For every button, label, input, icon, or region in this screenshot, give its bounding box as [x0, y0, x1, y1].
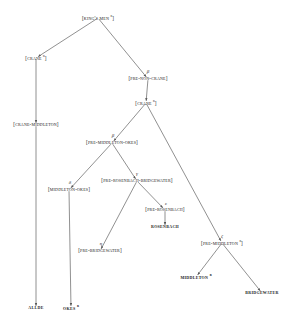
- edge-pre-ros-bri-to-pre-bridgewater: [101, 182, 136, 249]
- stemma-diagram: [King's Men n][Crane n][Pre-Non-Crane][C…: [0, 0, 295, 322]
- edge-pre-ros-bri-to-pre-rosenbach: [138, 182, 163, 208]
- node-middleton: Middleton n: [180, 274, 211, 280]
- node-label-tail: ]: [112, 15, 114, 21]
- node-pre-bridgewater: [Pre-Bridgewater]: [78, 248, 122, 253]
- node-pre-non-crane: [Pre-Non-Crane]: [128, 76, 167, 81]
- node-label: Rosenbach: [151, 223, 179, 229]
- edge-label-epsilon-ros: ε: [165, 201, 167, 206]
- node-label: [Pre-Rosenbach-Bridgewater]: [101, 177, 172, 183]
- node-label: Bridgewater: [245, 289, 278, 295]
- node-crane-2: [Crane n]: [135, 100, 156, 106]
- node-label: Okes: [63, 305, 77, 311]
- edge-kings-men-to-pre-non-crane: [99, 19, 146, 77]
- edge-crane-2-to-pre-middleton: [147, 104, 221, 241]
- node-crane-middleton: [Crane-Middleton]: [13, 122, 58, 127]
- node-pre-middleton: [Pre-Middleton n]: [201, 240, 243, 246]
- node-pre-rosenbach: [Pre-Rosenbach]: [145, 207, 184, 212]
- edge-middleton-okes-to-okes: [69, 191, 71, 306]
- node-label: [Crane-Middleton]: [13, 121, 58, 127]
- node-rosenbach: Rosenbach: [151, 224, 179, 229]
- node-bridgewater: Bridgewater: [245, 290, 278, 295]
- node-label: [Pre-Middleton: [201, 240, 239, 246]
- edge-label-gamma-ros-bri: γ: [136, 171, 138, 176]
- node-label-tail: ]: [155, 100, 157, 106]
- node-superscript: n: [77, 304, 79, 308]
- edge-label-eta-bridgewater: η: [100, 241, 102, 246]
- node-label-tail: ]: [241, 240, 243, 246]
- edge-layer: [0, 0, 295, 322]
- edge-pre-middleton-to-bridgewater: [223, 244, 260, 291]
- edge-pre-middleton-to-middleton: [198, 244, 221, 275]
- node-allde: Allde: [28, 305, 43, 310]
- node-label: [Pre-Rosenbach]: [145, 206, 184, 212]
- edge-label-beta-non-crane: β: [147, 69, 150, 74]
- node-label: [Pre-Middleton-Okes]: [86, 139, 138, 145]
- edge-label-beta-mid-okes: β: [112, 133, 115, 138]
- node-pre-ros-bri: [Pre-Rosenbach-Bridgewater]: [101, 178, 172, 183]
- node-label: Allde: [28, 304, 43, 310]
- node-label: [King's Men: [82, 15, 110, 21]
- node-label: [Crane: [25, 55, 43, 61]
- node-pre-mid-okes: [Pre-Middleton-Okes]: [86, 140, 138, 145]
- node-label: [Middleton-Okes]: [48, 186, 90, 192]
- node-kings-men: [King's Men n]: [82, 15, 114, 21]
- edge-pre-mid-okes-to-pre-ros-bri: [113, 144, 136, 179]
- edge-label-delta-mid-okes: δ: [69, 180, 71, 185]
- node-label: Middleton: [180, 274, 209, 280]
- edge-crane-2-to-pre-mid-okes: [114, 104, 145, 141]
- edge-pre-non-crane-to-crane-2: [146, 80, 148, 101]
- node-label: [Pre-Non-Crane]: [128, 75, 167, 81]
- node-okes: Okes n: [63, 305, 79, 311]
- node-label-tail: ]: [45, 55, 47, 61]
- node-label: [Pre-Bridgewater]: [78, 247, 122, 253]
- edge-label-zeta-middleton: ζ: [221, 234, 223, 239]
- node-crane-1: [Crane n]: [25, 55, 46, 61]
- node-label: [Crane: [135, 100, 153, 106]
- node-middleton-okes: [Middleton-Okes]: [48, 187, 90, 192]
- node-superscript: n: [210, 273, 212, 277]
- edge-kings-men-to-crane-1: [38, 19, 97, 57]
